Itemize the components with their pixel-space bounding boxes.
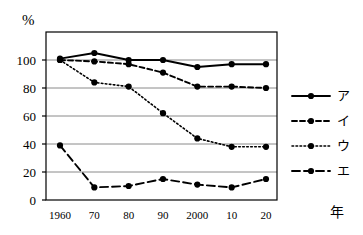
data-point <box>57 57 63 63</box>
legend-marker-ア <box>308 93 314 99</box>
data-point <box>263 144 269 150</box>
data-point <box>126 84 132 90</box>
data-point <box>194 182 200 188</box>
legend-marker-イ <box>308 118 314 124</box>
data-point <box>160 70 166 76</box>
data-point <box>160 57 166 63</box>
data-point <box>194 135 200 141</box>
data-point <box>91 50 97 56</box>
legend-marker-ウ <box>308 143 314 149</box>
data-point <box>57 142 63 148</box>
data-point <box>263 61 269 67</box>
data-point <box>229 144 235 150</box>
data-point <box>229 84 235 90</box>
data-point <box>229 184 235 190</box>
data-point <box>263 176 269 182</box>
data-point <box>194 84 200 90</box>
legend-marker-エ <box>308 168 314 174</box>
data-point <box>229 61 235 67</box>
line-chart: % 年 020406080100 196070809020001020 アイウエ <box>0 0 363 235</box>
data-point <box>194 64 200 70</box>
data-point <box>91 79 97 85</box>
data-point <box>91 184 97 190</box>
data-point <box>160 110 166 116</box>
data-point <box>126 183 132 189</box>
data-point <box>160 176 166 182</box>
plot-area <box>0 0 363 235</box>
data-point <box>126 61 132 67</box>
data-point <box>263 85 269 91</box>
data-point <box>91 58 97 64</box>
